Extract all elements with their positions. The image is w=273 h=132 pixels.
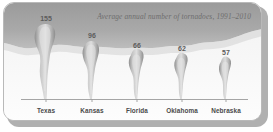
chart-title: Average annual number of tornadoes, 1991… <box>97 12 251 21</box>
value-label-texas: 155 <box>31 15 61 22</box>
axis-label-nebraska: Nebraska <box>199 107 253 114</box>
value-label-oklahoma: 62 <box>167 45 197 52</box>
tornado-chart-figure: Average annual number of tornadoes, 1991… <box>3 2 262 121</box>
chart-plot-area: Average annual number of tornadoes, 1991… <box>4 3 261 120</box>
value-label-kansas: 96 <box>77 32 107 39</box>
value-label-florida: 66 <box>122 42 152 49</box>
value-label-nebraska: 57 <box>211 49 241 56</box>
